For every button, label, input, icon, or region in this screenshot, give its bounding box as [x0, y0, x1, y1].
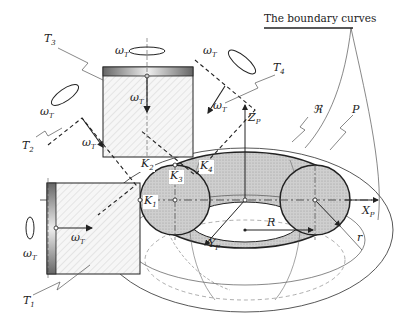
boundary-curves-title: The boundary curves [264, 12, 376, 24]
omega-t1-side: ωT [23, 248, 37, 262]
omega-t1-axis: ωT [71, 232, 85, 246]
omega-t2-axis: ωT [82, 137, 96, 151]
label-k4: K4 [199, 160, 214, 174]
label-t2: T2 [22, 140, 34, 154]
omega-t3-axis: ωT [130, 92, 144, 106]
label-k3: K3 [169, 170, 184, 184]
omega-t2-top: ωT [40, 106, 54, 120]
label-k2: K2 [140, 158, 155, 172]
label-axis-z: ZP [248, 112, 260, 126]
label-t3: T3 [44, 33, 56, 47]
omega-t4-axis: ωT [213, 100, 227, 114]
label-region: ℜ [313, 104, 322, 115]
omega-t3-top: ωT [115, 45, 129, 59]
label-part: P [352, 104, 359, 115]
label-t4: T4 [273, 62, 285, 76]
label-axis-y: YP [208, 238, 220, 252]
torus-machining-diagram: The boundary curves T3 T2 T1 T4 ωT ωT ωT… [0, 0, 400, 323]
label-axis-x: XP [362, 205, 375, 219]
label-minor-radius: r [357, 232, 362, 243]
label-major-radius: R [267, 217, 275, 228]
label-k1: K1 [143, 195, 158, 209]
omega-t4-top: ωT [203, 45, 217, 59]
label-t1: T1 [23, 295, 35, 309]
tool-t1 [26, 178, 140, 280]
